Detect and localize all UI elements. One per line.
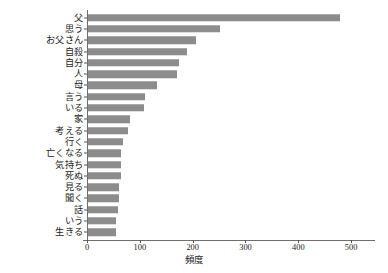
category-label: 亡くなる <box>46 149 83 158</box>
bar <box>87 172 121 179</box>
x-axis-tick-label: 500 <box>345 244 358 252</box>
bar <box>87 25 220 32</box>
x-axis-spine <box>83 240 375 241</box>
category-label: 人 <box>74 70 83 79</box>
bar-row: 言う <box>87 91 367 102</box>
bar <box>87 217 116 224</box>
x-axis-tick-label: 400 <box>292 244 305 252</box>
category-label: 母 <box>74 81 83 90</box>
category-label: 考える <box>55 126 83 135</box>
bar-row: 死ぬ <box>87 170 367 181</box>
bar-row: 考える <box>87 125 367 136</box>
bar-row: 行く <box>87 136 367 147</box>
category-label: 聞く <box>65 194 83 203</box>
x-axis-tick-label: 300 <box>239 244 252 252</box>
bar <box>87 183 119 190</box>
category-label: 生きる <box>55 228 83 237</box>
bar <box>87 14 340 21</box>
bar <box>87 161 121 168</box>
bar-row: 自分 <box>87 57 367 68</box>
bar-row: 家 <box>87 114 367 125</box>
category-label: 話 <box>74 205 83 214</box>
bar-row: 話 <box>87 204 367 215</box>
category-label: 死ぬ <box>65 171 83 180</box>
bar <box>87 229 116 236</box>
category-label: 自殺 <box>65 47 83 56</box>
plot-area: 父思うお父さん自殺自分人母言ういる家考える行く亡くなる気持ち死ぬ見る聞く話いう生… <box>87 12 367 238</box>
bar-row: 亡くなる <box>87 148 367 159</box>
x-axis-tick-label: 100 <box>134 244 147 252</box>
bar <box>87 93 145 100</box>
category-label: 父 <box>74 13 83 22</box>
bar-row: 人 <box>87 68 367 79</box>
x-axis-tick-label: 0 <box>85 244 89 252</box>
bar <box>87 70 177 77</box>
bar <box>87 59 179 66</box>
bar-row: 気持ち <box>87 159 367 170</box>
category-label: 家 <box>74 115 83 124</box>
category-label: いう <box>65 216 83 225</box>
bar-row: 聞く <box>87 193 367 204</box>
bar <box>87 149 121 156</box>
bar-row: いう <box>87 215 367 226</box>
bar-row: 父 <box>87 12 367 23</box>
x-axis-title: 頻度 <box>0 255 388 264</box>
bar <box>87 138 123 145</box>
bar-row: 母 <box>87 80 367 91</box>
category-label: いる <box>65 103 83 112</box>
bar <box>87 82 157 89</box>
x-axis-tick-label: 200 <box>186 244 199 252</box>
bar-row: 思う <box>87 23 367 34</box>
bar <box>87 127 128 134</box>
bar <box>87 116 130 123</box>
category-label: 言う <box>65 92 83 101</box>
bar-row: いる <box>87 102 367 113</box>
bar-row: 自殺 <box>87 46 367 57</box>
category-label: 見る <box>65 182 83 191</box>
bar-row: お父さん <box>87 35 367 46</box>
category-label: 自分 <box>65 58 83 67</box>
category-label: 思う <box>65 24 83 33</box>
bar <box>87 195 119 202</box>
bar <box>87 48 187 55</box>
bar <box>87 37 196 44</box>
category-label: 気持ち <box>55 160 83 169</box>
frequency-bar-chart: 父思うお父さん自殺自分人母言ういる家考える行く亡くなる気持ち死ぬ見る聞く話いう生… <box>0 0 388 273</box>
bar-row: 見る <box>87 181 367 192</box>
bar <box>87 206 118 213</box>
category-label: 行く <box>65 137 83 146</box>
bar <box>87 104 144 111</box>
bar-row: 生きる <box>87 227 367 238</box>
y-axis-spine <box>87 10 88 240</box>
category-label: お父さん <box>46 36 83 45</box>
